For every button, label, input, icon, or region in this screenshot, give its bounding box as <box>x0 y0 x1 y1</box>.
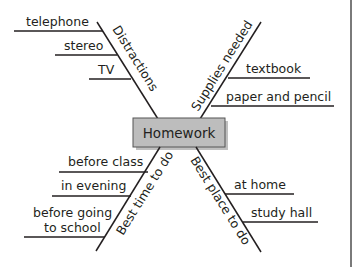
item-telephone: telephone <box>26 14 89 29</box>
item-study-hall: study hall <box>251 205 312 220</box>
center-box: Homework <box>133 118 228 150</box>
branch-best-place: Best place to do at home study hall <box>187 147 318 252</box>
item-before-class: before class <box>68 154 143 169</box>
item-to-school: to school <box>44 220 101 235</box>
fishbone-diagram: Distractions telephone stereo TV Supplie… <box>0 0 352 267</box>
item-at-home: at home <box>234 177 286 192</box>
item-tv: TV <box>97 62 115 77</box>
branch-label-best-place: Best place to do <box>187 154 253 248</box>
center-label: Homework <box>143 125 216 141</box>
item-before-going: before going <box>33 205 112 220</box>
branch-best-time: Best time to do before class in evening … <box>24 147 176 251</box>
item-in-evening: in evening <box>61 178 126 193</box>
branch-distractions: Distractions telephone stereo TV <box>14 14 162 119</box>
item-paper-and-pencil: paper and pencil <box>226 89 331 104</box>
item-stereo: stereo <box>64 38 103 53</box>
branch-supplies: Supplies needed textbook paper and penci… <box>188 18 334 119</box>
item-textbook: textbook <box>246 61 302 76</box>
